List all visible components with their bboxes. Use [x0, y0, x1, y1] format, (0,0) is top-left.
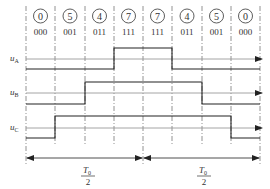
period-label-left: T0 2 — [81, 165, 95, 187]
vector-cell-6: 5 001 — [210, 9, 224, 37]
vector-cell-7: 0 000 — [239, 9, 253, 37]
vector-code: 111 — [151, 27, 164, 37]
vector-index: 7 — [155, 11, 160, 22]
period-label-right: T0 2 — [197, 165, 211, 187]
signal-labels: uA uB uC — [10, 53, 20, 133]
vector-code: 000 — [34, 27, 48, 37]
signal-label-b: uB — [10, 87, 19, 98]
vector-index: 5 — [214, 11, 219, 22]
timing-diagram: 0 000 5 001 4 011 7 111 7 111 4 011 — [0, 0, 270, 189]
vector-cell-4: 7 111 — [151, 9, 165, 37]
vector-code: 000 — [239, 27, 253, 37]
vector-index: 7 — [126, 11, 131, 22]
vector-code: 011 — [93, 27, 106, 37]
vector-index: 0 — [38, 11, 43, 22]
svg-text:2: 2 — [86, 177, 91, 187]
vector-code: 001 — [210, 27, 224, 37]
signal-label-c: uC — [10, 122, 19, 133]
vector-index: 4 — [97, 11, 102, 22]
vector-code: 001 — [63, 27, 77, 37]
vector-cell-5: 4 011 — [180, 9, 194, 37]
vector-code: 011 — [180, 27, 193, 37]
vector-code: 111 — [122, 27, 135, 37]
svg-text:T0: T0 — [83, 165, 91, 176]
svg-text:T0: T0 — [199, 165, 207, 176]
vector-cell-1: 5 001 — [63, 9, 77, 37]
vector-index: 4 — [185, 11, 190, 22]
vector-index: 5 — [68, 11, 73, 22]
svg-text:2: 2 — [202, 177, 207, 187]
interval-dividers — [26, 6, 260, 166]
signal-label-a: uA — [10, 53, 20, 64]
vector-cell-3: 7 111 — [122, 9, 136, 37]
vector-cell-2: 4 011 — [93, 9, 107, 37]
vector-index: 0 — [243, 11, 248, 22]
vector-cell-0: 0 000 — [34, 9, 48, 37]
